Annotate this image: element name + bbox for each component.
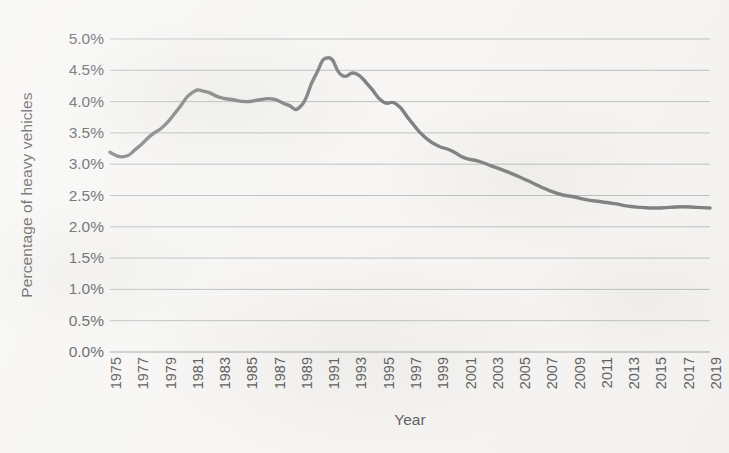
x-axis-tick-label: 1995 — [389, 357, 405, 389]
x-axis-tick-label: 2015 — [661, 357, 677, 389]
x-axis-tick-label-text: 1975 — [108, 357, 124, 389]
x-axis-tick-label-text: 1995 — [381, 357, 397, 389]
x-axis-tick-label: 2005 — [525, 357, 541, 389]
x-axis-tick-label-text: 1985 — [244, 357, 260, 389]
x-axis-tick-label-text: 2007 — [544, 357, 560, 389]
x-axis-tick-label: 2001 — [471, 357, 487, 389]
x-axis-tick-label: 2017 — [689, 357, 705, 389]
x-axis-tick-label-text: 2011 — [599, 357, 615, 388]
x-axis-tick-label-text: 2005 — [517, 357, 533, 389]
x-axis-tick-label: 1989 — [307, 357, 323, 389]
x-axis-tick-label: 1993 — [361, 357, 377, 389]
x-axis-tick-label: 1981 — [198, 357, 214, 389]
line-chart: Percentage of heavy vehicles 0.0%0.5%1.0… — [0, 0, 729, 453]
x-axis-tick-label-text: 2001 — [463, 357, 479, 389]
x-axis-tick-label: 1983 — [225, 357, 241, 389]
x-axis-tick-label-text: 1977 — [135, 357, 151, 389]
x-axis-tick-label: 2009 — [580, 357, 596, 389]
x-axis-tick-label: 1975 — [116, 357, 132, 389]
x-axis-title: Year — [110, 411, 710, 429]
x-axis-tick-label: 1991 — [334, 357, 350, 389]
x-axis-tick-label-text: 2013 — [626, 357, 642, 389]
x-axis-tick-label: 2019 — [716, 357, 729, 389]
x-axis-tick-label: 2013 — [634, 357, 650, 389]
x-axis-tick-label-text: 1989 — [299, 357, 315, 389]
x-axis-tick-label-text: 2017 — [681, 357, 697, 389]
x-axis-tick-label: 1987 — [280, 357, 296, 389]
x-axis-tick-label-text: 1991 — [326, 357, 342, 389]
x-axis-tick-label-text: 2019 — [708, 357, 724, 389]
x-axis-tick-label-text: 2003 — [490, 357, 506, 389]
x-axis-ticks: 1975197719791981198319851987198919911993… — [0, 0, 729, 453]
x-axis-tick-label-text: 1987 — [272, 357, 288, 389]
x-axis-tick-label: 1985 — [252, 357, 268, 389]
x-axis-tick-label: 1997 — [416, 357, 432, 389]
x-axis-tick-label-text: 1993 — [353, 357, 369, 389]
x-axis-tick-label-text: 2009 — [572, 357, 588, 389]
x-axis-tick-label: 2003 — [498, 357, 514, 389]
x-axis-tick-label: 1977 — [143, 357, 159, 389]
x-axis-tick-label-text: 1979 — [163, 357, 179, 389]
x-axis-tick-label-text: 1997 — [408, 357, 424, 389]
x-axis-tick-label: 1979 — [171, 357, 187, 389]
x-axis-tick-label: 2011 — [607, 357, 623, 388]
x-axis-tick-label: 1999 — [443, 357, 459, 389]
x-axis-tick-label-text: 1999 — [435, 357, 451, 389]
x-axis-tick-label-text: 1983 — [217, 357, 233, 389]
x-axis-tick-label: 2007 — [552, 357, 568, 389]
x-axis-tick-label-text: 1981 — [190, 357, 206, 389]
x-axis-tick-label-text: 2015 — [653, 357, 669, 389]
